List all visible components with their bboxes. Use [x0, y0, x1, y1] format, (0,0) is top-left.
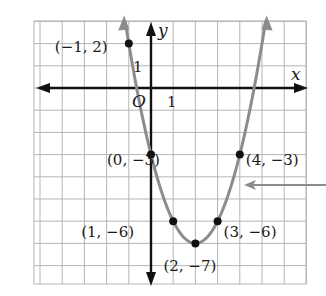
point-label: (1, −6): [81, 223, 134, 241]
data-point: [236, 151, 244, 159]
data-point: [125, 40, 133, 48]
data-points: [125, 40, 244, 248]
parabola-graph: (−1, 2)(0, −3)(1, −6)(2, −7)(3, −6)(4, −…: [0, 0, 326, 296]
data-point: [191, 239, 199, 247]
point-label: (2, −7): [163, 257, 216, 275]
x-tick-label: 1: [167, 93, 177, 111]
data-point: [214, 217, 222, 225]
point-label: (4, −3): [246, 151, 299, 169]
y-tick-label: 1: [133, 58, 143, 76]
x-axis-label: x: [291, 64, 301, 84]
origin-label: O: [132, 91, 146, 111]
point-label: (3, −6): [224, 223, 277, 241]
annotation-arrow: [244, 180, 326, 190]
data-point: [169, 217, 177, 225]
point-label: (0, −3): [107, 151, 160, 169]
point-label: (−1, 2): [55, 38, 108, 56]
y-axis-label: y: [157, 20, 168, 40]
